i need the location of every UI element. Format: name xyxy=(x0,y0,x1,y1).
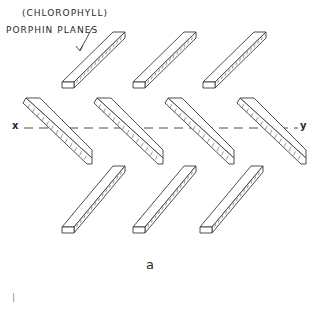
axis-y-label: y xyxy=(300,120,307,131)
porphin-plane-slab xyxy=(200,166,263,233)
axis-x-label: x xyxy=(12,120,18,131)
chlorophyll-porphin-diagram: (CHLOROPHYLL) PORPHIN PLANES x y a | xyxy=(0,0,319,311)
porphin-plane-slab xyxy=(23,98,92,164)
porphin-plane-slab xyxy=(165,98,234,164)
porphin-plane-slab xyxy=(62,32,125,88)
figure-caption: a xyxy=(146,257,154,272)
porphin-plane-slab xyxy=(62,166,125,233)
porphin-plane-slab xyxy=(203,32,266,88)
annotation-line1: (CHLOROPHYLL) xyxy=(22,8,108,18)
annotation-line2: PORPHIN PLANES xyxy=(6,25,98,35)
porphin-plane-slab xyxy=(133,32,196,88)
porphin-plane-slab xyxy=(94,98,163,164)
diagram-drawing xyxy=(0,0,319,311)
porphin-plane-slab xyxy=(133,166,196,233)
porphin-plane-slab xyxy=(237,98,306,164)
corner-mark: | xyxy=(12,292,15,302)
porphin-planes xyxy=(23,32,306,233)
